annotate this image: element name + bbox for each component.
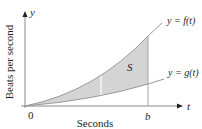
vertical-axis-title: Beats per second <box>3 24 15 99</box>
curve-g-label: y = g(t) <box>167 67 199 79</box>
y-axis-arrow-icon <box>23 11 28 17</box>
region-s-label: S <box>127 61 133 73</box>
area-between-curves-diagram: y t 0 b S Seconds Beats per second y = f… <box>0 0 202 129</box>
x-axis-arrow-icon <box>177 104 183 109</box>
x-axis-label: t <box>187 100 191 112</box>
origin-label: 0 <box>28 109 34 121</box>
y-axis-label: y <box>29 6 35 18</box>
curve-f-label: y = f(t) <box>166 15 196 27</box>
b-label: b <box>145 110 151 122</box>
horizontal-axis-title: Seconds <box>77 117 114 129</box>
